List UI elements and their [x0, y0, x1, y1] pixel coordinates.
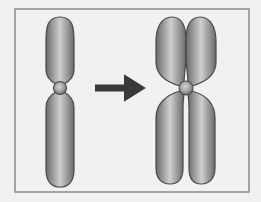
right-chromatid-upper-arm [186, 17, 216, 86]
diagram-canvas [0, 0, 261, 202]
left-chromatid-upper-arm [156, 17, 186, 86]
replicated-chromosome [156, 17, 216, 184]
centromere [179, 81, 193, 95]
upper-arm [46, 17, 74, 84]
lower-arm [46, 92, 74, 187]
chromosome-diagram [0, 0, 261, 202]
centromere [54, 82, 67, 95]
unreplicated-chromosome [46, 17, 74, 187]
right-chromatid-lower-arm [188, 91, 215, 184]
left-chromatid-lower-arm [156, 91, 184, 184]
